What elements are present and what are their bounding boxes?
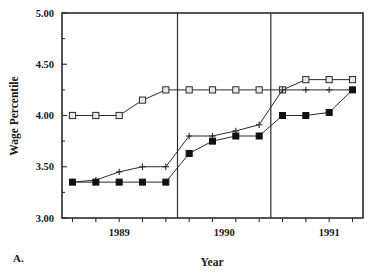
y-axis-tick-labels: 3.003.504.004.505.00	[36, 8, 54, 224]
marker-filled-square	[233, 133, 239, 139]
marker-filled-square	[280, 113, 286, 119]
wage-percentile-chart: 3.003.504.004.505.00 198919901991 Wage P…	[0, 0, 375, 277]
marker-filled-square	[163, 179, 169, 185]
series-upper	[69, 77, 355, 119]
marker-open-square	[349, 77, 355, 83]
marker-open-square	[116, 112, 122, 118]
marker-filled-square	[256, 133, 262, 139]
marker-plus	[326, 87, 332, 93]
x-tick-label-1991: 1991	[319, 227, 340, 238]
marker-filled-square	[140, 179, 146, 185]
marker-plus	[303, 87, 309, 93]
data-series-group	[69, 77, 355, 186]
x-axis-tick-labels: 198919901991	[109, 227, 340, 238]
marker-open-square	[163, 87, 169, 93]
marker-open-square	[303, 77, 309, 83]
marker-open-square	[93, 112, 99, 118]
y-axis-title: Wage Percentile	[8, 76, 21, 155]
y-tick-label: 3.50	[36, 161, 54, 172]
y-tick-label: 5.00	[36, 8, 54, 19]
x-axis-title: Year	[201, 256, 224, 268]
y-tick-label: 4.00	[36, 110, 54, 121]
marker-filled-square	[186, 150, 192, 156]
x-tick-label-1990: 1990	[214, 227, 235, 238]
marker-filled-square	[70, 179, 76, 185]
marker-filled-square	[210, 138, 216, 144]
y-tick-label: 4.50	[36, 59, 54, 70]
marker-plus	[116, 169, 122, 175]
marker-filled-square	[326, 109, 332, 115]
marker-filled-square	[303, 113, 309, 119]
marker-open-square	[186, 87, 192, 93]
marker-open-square	[256, 87, 262, 93]
year-divider-lines	[178, 13, 271, 218]
marker-filled-square	[93, 179, 99, 185]
marker-plus	[256, 122, 262, 128]
figure-panel-a: 3.003.504.004.505.00 198919901991 Wage P…	[0, 0, 375, 277]
marker-open-square	[69, 112, 75, 118]
marker-filled-square	[116, 179, 122, 185]
panel-label: A.	[13, 252, 24, 264]
marker-filled-square	[350, 87, 356, 93]
marker-open-square	[326, 77, 332, 83]
x-tick-label-1989: 1989	[109, 227, 130, 238]
series-line-upper	[73, 80, 353, 116]
y-tick-label: 3.00	[36, 213, 54, 224]
marker-open-square	[139, 97, 145, 103]
marker-plus	[139, 164, 145, 170]
marker-open-square	[233, 87, 239, 93]
marker-open-square	[209, 87, 215, 93]
series-middle	[69, 87, 355, 186]
